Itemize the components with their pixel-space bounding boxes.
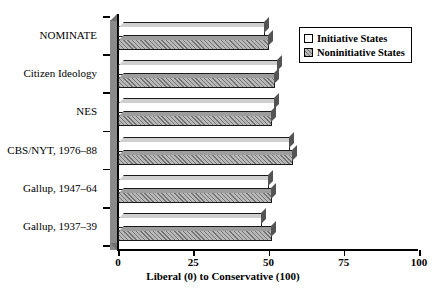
legend-swatch-noninitiative-icon — [304, 48, 313, 57]
bar-top-face — [119, 226, 276, 231]
y-tick — [103, 207, 110, 209]
bar-top-face — [119, 137, 294, 142]
x-axis-title: Liberal (0) to Conservative (100) — [0, 270, 446, 282]
bar-top-face — [119, 35, 273, 40]
y-tick — [103, 16, 110, 18]
bar-chart: NOMINATECitizen IdeologyNESCBS/NYT, 1976… — [0, 0, 446, 290]
y-axis-wall-bottom-bevel — [110, 243, 117, 250]
y-tick — [103, 54, 110, 56]
bar-noninitiative — [118, 230, 272, 241]
legend-swatch-initiative-icon — [304, 34, 313, 43]
y-axis-category-label: CBS/NYT, 1976–88 — [7, 144, 97, 156]
bar-end-cap — [292, 145, 297, 161]
y-axis-category-label: Gallup, 1937–39 — [23, 220, 97, 232]
legend-entry-noninitiative: Noninitiative States — [304, 45, 405, 59]
x-tick-label: 100 — [411, 256, 428, 268]
y-axis-category-label: Gallup, 1947–64 — [23, 182, 97, 194]
y-axis-category-label: NES — [76, 105, 97, 117]
bar-noninitiative — [118, 115, 272, 126]
bar-top-face — [119, 188, 276, 193]
legend-entry-initiative: Initiative States — [304, 31, 405, 45]
bar-top-face — [119, 22, 269, 27]
y-axis-category-label: Citizen Ideology — [23, 67, 97, 79]
y-tick — [103, 92, 110, 94]
bar-noninitiative — [118, 39, 269, 50]
y-tick — [103, 169, 110, 171]
x-axis-line — [117, 249, 418, 251]
bar-end-cap — [261, 208, 266, 224]
bar-top-face — [119, 60, 282, 65]
bar-end-cap — [268, 170, 273, 186]
legend: Initiative States Noninitiative States — [299, 27, 412, 63]
bar-end-cap — [268, 30, 273, 46]
x-tick-label: 50 — [263, 256, 274, 268]
bar-top-face — [119, 175, 273, 180]
bar-noninitiative — [118, 154, 293, 165]
y-axis-wall-top-bevel — [110, 14, 117, 21]
bar-end-cap — [271, 221, 276, 237]
bar-end-cap — [271, 106, 276, 122]
legend-label-initiative: Initiative States — [317, 33, 387, 44]
y-tick — [103, 245, 110, 247]
x-tick-label: 25 — [188, 256, 199, 268]
bar-end-cap — [264, 17, 269, 33]
bar-top-face — [119, 150, 297, 155]
bar-noninitiative — [118, 192, 272, 203]
x-tick-label: 75 — [338, 256, 349, 268]
bar-top-face — [119, 73, 279, 78]
y-tick — [103, 131, 110, 133]
bar-top-face — [119, 98, 279, 103]
bar-end-cap — [289, 132, 294, 148]
bar-end-cap — [271, 183, 276, 199]
bar-top-face — [119, 111, 276, 116]
y-axis-category-label: NOMINATE — [40, 29, 97, 41]
bar-noninitiative — [118, 77, 275, 88]
x-tick-label: 0 — [115, 256, 121, 268]
legend-label-noninitiative: Noninitiative States — [317, 47, 405, 58]
bar-top-face — [119, 213, 266, 218]
